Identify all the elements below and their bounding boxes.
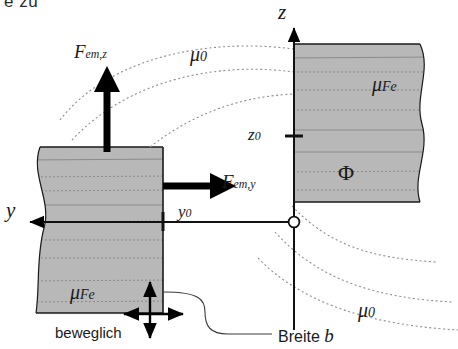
tick-label-y0: y0: [178, 203, 192, 220]
origin-marker: [289, 217, 300, 228]
mu-sub: 0: [200, 49, 207, 64]
mu-base: μ: [190, 43, 200, 65]
material-label-mu0-upper: μ0: [190, 44, 207, 64]
tick-base-z0: z: [248, 125, 255, 144]
tick-sub-z0: 0: [255, 129, 261, 143]
iron-block-right: [285, 44, 440, 202]
material-label-muFe-left: μFe: [70, 282, 95, 302]
mu-sub: Fe: [80, 287, 95, 302]
iron-block-left: [25, 147, 175, 313]
annotation-width-symbol: b: [324, 325, 334, 346]
material-label-mu0-lower: μ0: [358, 300, 375, 320]
force-base-z: F: [74, 41, 86, 62]
material-label-muFe-right: μFe: [372, 74, 397, 94]
mu-base: μ: [372, 73, 382, 95]
axis-label-y: y: [6, 200, 15, 221]
mu-base: μ: [70, 281, 80, 303]
force-label-em-z: Fem,z: [74, 42, 107, 61]
mu-sub: 0: [368, 305, 375, 320]
cut-off-header-text: e zu: [4, 0, 38, 10]
axis-label-z: z: [278, 2, 286, 23]
annotation-movable: beweglich: [55, 325, 122, 340]
annotation-width-text: Breite: [278, 328, 320, 345]
tick-sub-y0: 0: [186, 206, 192, 220]
tick-base-y0: y: [178, 202, 186, 221]
force-arrow-z: [94, 66, 120, 152]
force-label-em-y: Fem,y: [222, 172, 256, 191]
mu-sub: Fe: [382, 79, 397, 94]
annotation-width: Breite b: [278, 326, 334, 345]
mu-base: μ: [358, 299, 368, 321]
flux-symbol: Φ: [338, 162, 354, 184]
figure-canvas: e zu Fem,z Fem,y μ0 μ0 μFe μFe Φ z y z0 …: [0, 0, 458, 349]
force-sub-z: em,z: [86, 48, 107, 61]
force-sub-y: em,y: [234, 178, 256, 191]
force-base-y: F: [222, 171, 234, 192]
tick-label-z0: z0: [248, 126, 261, 143]
